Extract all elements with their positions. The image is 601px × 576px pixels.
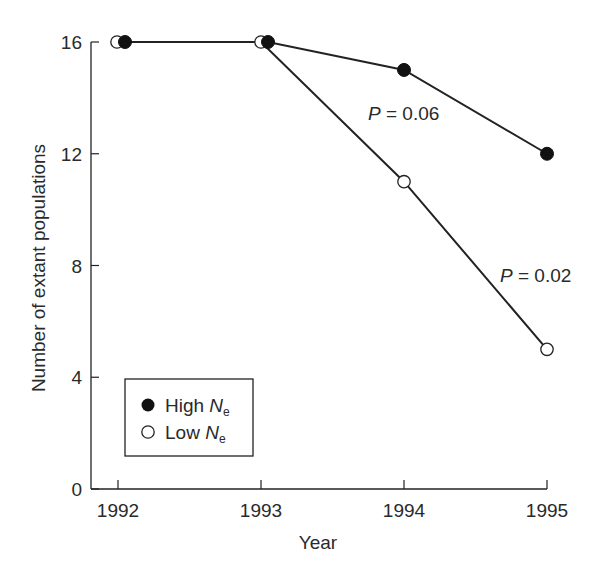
x-axis-title: Year bbox=[299, 532, 338, 553]
y-axis-title: Number of extant populations bbox=[28, 144, 49, 392]
axes: 04812161992199319941995YearNumber of ext… bbox=[28, 32, 568, 553]
y-tick-label: 8 bbox=[71, 256, 82, 277]
data-point-low-ne bbox=[541, 343, 553, 355]
data-point-high-ne bbox=[262, 36, 275, 49]
y-tick-label: 0 bbox=[71, 479, 82, 500]
x-tick-label: 1993 bbox=[240, 500, 282, 521]
x-tick-label: 1994 bbox=[383, 500, 426, 521]
data-point-high-ne bbox=[541, 147, 554, 160]
series-line-high-ne bbox=[125, 42, 547, 154]
line-chart: 04812161992199319941995YearNumber of ext… bbox=[0, 0, 601, 576]
data-point-high-ne bbox=[398, 63, 411, 76]
series-markers bbox=[111, 36, 554, 356]
series-line-low-ne bbox=[117, 42, 547, 349]
data-point-low-ne bbox=[398, 175, 410, 187]
x-tick-label: 1992 bbox=[97, 500, 139, 521]
legend-label: High Ne bbox=[165, 395, 230, 419]
legend: High NeLow Ne bbox=[125, 379, 253, 456]
y-tick-label: 4 bbox=[71, 367, 82, 388]
legend-marker-open-icon bbox=[142, 426, 154, 438]
legend-label: Low Ne bbox=[165, 422, 226, 446]
y-tick-label: 12 bbox=[61, 144, 82, 165]
legend-box bbox=[125, 379, 253, 456]
y-tick-label: 16 bbox=[61, 32, 82, 53]
p-value-annotation: P = 0.02 bbox=[500, 265, 571, 286]
data-point-high-ne bbox=[119, 36, 132, 49]
legend-marker-filled-icon bbox=[142, 399, 155, 412]
series-lines bbox=[117, 42, 547, 349]
p-value-annotation: P = 0.06 bbox=[368, 103, 439, 124]
x-tick-label: 1995 bbox=[526, 500, 568, 521]
